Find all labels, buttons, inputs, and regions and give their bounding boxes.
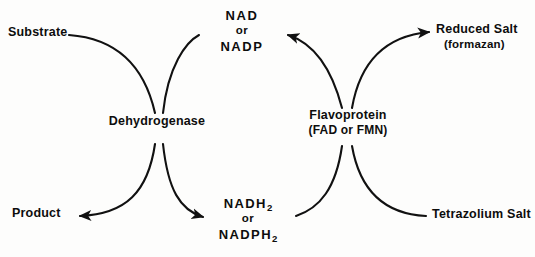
label-nadh-top-subscript: 2 xyxy=(267,202,272,213)
label-reduced-salt: Reduced Salt (formazan) xyxy=(436,22,518,51)
label-nadh-or: or xyxy=(196,212,300,226)
arc-dehydrogenase-to-nad xyxy=(163,35,199,113)
label-flavoprotein: Flavoprotein (FAD or FMN) xyxy=(288,108,408,137)
label-nad-top: NAD xyxy=(226,8,259,23)
label-dehydrogenase: Dehydrogenase xyxy=(97,114,217,129)
label-reduced-salt-main: Reduced Salt xyxy=(436,22,518,36)
label-nadh-top: NADH2 xyxy=(224,196,273,211)
label-nad-or: or xyxy=(203,24,281,38)
label-nadh-stack: NADH2 or NADPH2 xyxy=(196,196,300,242)
label-nadh-bottom: NADPH2 xyxy=(219,227,278,242)
arc-dehydrogenase-to-product xyxy=(80,144,155,216)
arc-nad-to-flavoprotein xyxy=(288,35,342,108)
label-flavoprotein-cofactors: (FAD or FMN) xyxy=(288,123,408,137)
label-nadh-bottom-text: NADPH xyxy=(219,227,272,242)
label-nadh-bottom-subscript: 2 xyxy=(272,233,277,244)
arc-flavoprotein-to-reduced-salt xyxy=(352,32,429,108)
arc-nadh-to-flavoprotein xyxy=(296,146,342,216)
label-product: Product xyxy=(12,206,61,221)
diagram-canvas: Substrate Product Reduced Salt (formazan… xyxy=(0,0,535,257)
arc-substrate-to-dehydrogenase xyxy=(69,35,155,113)
label-substrate: Substrate xyxy=(8,25,67,40)
label-reduced-salt-alt: (formazan) xyxy=(444,38,518,52)
arc-tetrazolium-to-flavoprotein xyxy=(352,146,426,216)
label-tetrazolium-salt: Tetrazolium Salt xyxy=(432,207,531,222)
label-nad-bottom: NADP xyxy=(220,39,263,54)
label-nadh-top-text: NADH xyxy=(224,196,267,211)
label-flavoprotein-main: Flavoprotein xyxy=(309,108,386,122)
label-nad-stack: NAD or NADP xyxy=(203,8,281,54)
